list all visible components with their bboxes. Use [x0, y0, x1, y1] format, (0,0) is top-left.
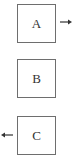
- box-a: A: [17, 4, 56, 43]
- box-c: C: [17, 116, 56, 155]
- box-a-label: A: [32, 17, 41, 30]
- arrow-left-icon: [1, 131, 13, 139]
- box-b-label: B: [32, 72, 41, 85]
- box-c-label: C: [32, 129, 41, 142]
- arrow-right-icon: [60, 18, 72, 26]
- box-b: B: [17, 59, 56, 98]
